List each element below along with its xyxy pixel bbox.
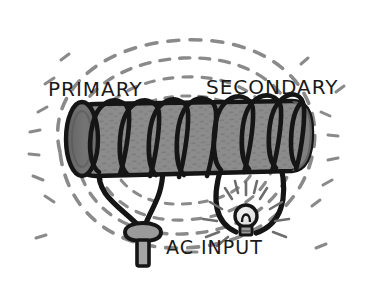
label-ac-input: AC INPUT — [166, 236, 263, 258]
core-body — [76, 101, 312, 176]
bulb-glass — [235, 205, 257, 227]
label-primary: PRIMARY — [48, 77, 143, 101]
plug-prong — [137, 240, 149, 266]
transformer-diagram: PRIMARY SECONDARY AC INPUT — [0, 0, 366, 284]
label-secondary: SECONDARY — [206, 75, 339, 99]
